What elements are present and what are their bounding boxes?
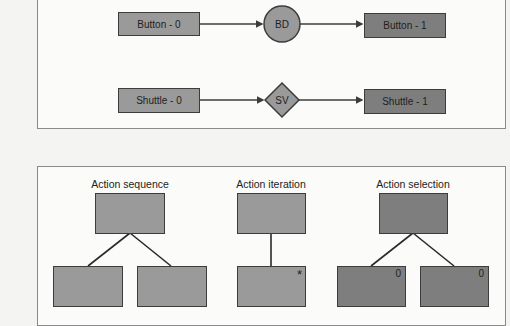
action-selection-title: Action selection [376,178,450,190]
action-selection-parent [379,193,448,234]
action-sequence-child-2 [137,266,207,307]
action-sequence-parent [95,193,165,234]
action-iteration-child: * [237,266,306,307]
action-selection-child-2: 0 [420,266,489,307]
selection-mark: 0 [478,269,484,279]
action-sequence-child-1 [53,266,123,307]
iteration-star-icon: * [297,268,302,281]
action-sequence-title: Action sequence [91,178,169,190]
selection-mark: 0 [395,269,401,279]
action-iteration-title: Action iteration [236,178,305,190]
action-selection-child-1: 0 [337,266,406,307]
action-iteration-parent [237,193,306,234]
